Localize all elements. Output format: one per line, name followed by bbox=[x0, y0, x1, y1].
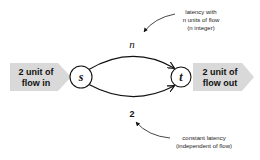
annotation-top-pointer bbox=[144, 14, 175, 32]
svg-text:constant latency: constant latency bbox=[182, 135, 225, 141]
svg-text:n units of flow: n units of flow bbox=[183, 17, 220, 23]
annotation-top: latency with n units of flow (n integer) bbox=[183, 9, 220, 31]
svg-text:s: s bbox=[78, 70, 84, 84]
node-t: t bbox=[171, 67, 191, 87]
edge-bottom bbox=[88, 84, 174, 97]
edge-top bbox=[88, 56, 174, 70]
edge-top-label: n bbox=[129, 38, 135, 50]
annotation-bottom: constant latency (independent of flow) bbox=[176, 135, 232, 149]
edge-bottom-label: 2 bbox=[129, 109, 134, 119]
svg-text:(independent of flow): (independent of flow) bbox=[176, 143, 232, 149]
annotation-bottom-pointer bbox=[136, 122, 170, 138]
svg-text:latency with: latency with bbox=[185, 9, 216, 15]
flow-out-arrow: 2 unit of flow out bbox=[193, 63, 254, 91]
flow-in-label-2: flow in bbox=[22, 78, 51, 88]
flow-out-label-1: 2 unit of bbox=[203, 67, 239, 77]
node-s: s bbox=[70, 66, 92, 88]
flow-in-label-1: 2 unit of bbox=[19, 67, 55, 77]
flow-in-arrow: 2 unit of flow in bbox=[10, 63, 71, 91]
flow-network-diagram: 2 unit of flow in 2 unit of flow out s t… bbox=[0, 0, 260, 160]
svg-text:(n integer): (n integer) bbox=[187, 25, 214, 31]
flow-out-label-2: flow out bbox=[203, 78, 238, 88]
